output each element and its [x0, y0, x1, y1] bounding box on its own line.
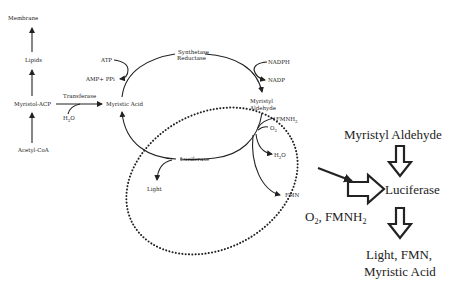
fmnh2-label: FMNH2 [276, 116, 298, 124]
summary-cofactors-label: O2, FMNH2 [305, 209, 366, 226]
summary-enzyme-label: Luciferase [385, 182, 440, 197]
reductase-to-aldehyde-arc [205, 54, 262, 92]
myristol-acp-label: Myristol-ACP [14, 101, 51, 108]
luciferase-small-label: Luciferase [180, 156, 209, 162]
summary-products-line1: Light, FMN, [366, 247, 432, 262]
summary-substrate-label: Myristyl Aldehyde [344, 127, 442, 142]
myristyl-label: Myristyl [250, 98, 273, 105]
summary-reaction: Myristyl Aldehyde Luciferase O2, FMNH2 L… [305, 127, 442, 279]
atp-label: ATP [100, 57, 112, 63]
highlight-ellipse [101, 79, 324, 284]
left-pathway: Membrane Lipids Myristol-ACP Acetyl-CoA … [8, 15, 102, 154]
atp-branch [114, 60, 128, 79]
light-small-label: Light [147, 186, 162, 193]
reductase-cycle: Myristic Acid Synthetase Reductase ATP A… [85, 49, 352, 283]
substrate-down-arrow [389, 146, 411, 176]
aldehyde-to-luciferase-arc [180, 113, 262, 160]
h2o-arrow [256, 134, 272, 154]
reductase-label: Reductase [177, 55, 206, 61]
pointer-arrow [318, 168, 352, 181]
light-arrow [157, 160, 172, 180]
lipids-label: Lipids [25, 57, 42, 64]
cofactor-right-arrow [348, 175, 384, 203]
transferase-label: Transferase [63, 93, 96, 99]
acid-to-synthetase-arc [122, 54, 175, 97]
membrane-label: Membrane [8, 15, 38, 21]
fmn-arrow [253, 135, 280, 195]
myristic-acid-label: Myristic Acid [106, 101, 144, 108]
amp-ppi-label: AMP+ PPi [85, 76, 115, 82]
nadph-label: NADPH [268, 59, 290, 65]
o2-small-label: O2 [270, 125, 278, 133]
luciferase-to-acid-arc [122, 112, 176, 159]
water-branch [68, 104, 80, 114]
summary-products-line2: Myristic Acid [364, 264, 436, 279]
o2-branch [258, 127, 268, 130]
acetyl-coa-label: Acetyl-CoA [17, 147, 50, 154]
h2o-small-label: H2O [274, 152, 286, 160]
luciferase-pathway-diagram: Membrane Lipids Myristol-ACP Acetyl-CoA … [0, 0, 460, 295]
water-label: H2O [63, 115, 75, 123]
fmn-small-label: FMN [285, 192, 299, 198]
nadp-label: NADP [268, 77, 285, 83]
products-down-arrow [389, 208, 411, 238]
